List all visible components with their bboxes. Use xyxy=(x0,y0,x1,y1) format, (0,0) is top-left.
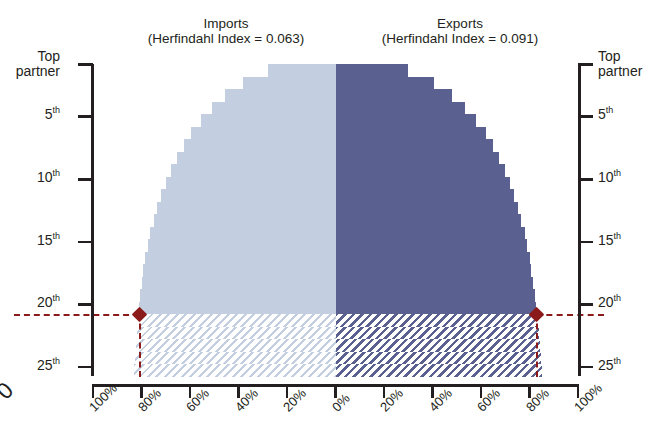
rank-row xyxy=(93,252,578,265)
rank-row xyxy=(93,202,578,215)
exports-bar xyxy=(336,202,519,215)
rank-row xyxy=(93,314,578,327)
imports-bar xyxy=(177,152,336,165)
y-axis-label: Toppartner xyxy=(16,49,60,78)
y-tick-left xyxy=(78,115,93,118)
y-axis-label: 20th xyxy=(598,294,621,309)
plot-area xyxy=(93,64,578,377)
rank-row xyxy=(93,164,578,177)
reference-drop-left xyxy=(139,314,141,377)
exports-bar xyxy=(336,89,452,102)
rank-row xyxy=(93,102,578,115)
exports-bar xyxy=(336,302,537,315)
y-axis-right-spine xyxy=(578,64,581,376)
rank-row xyxy=(93,277,578,290)
y-tick-left xyxy=(78,303,93,306)
exports-bar xyxy=(336,264,532,277)
imports-bar xyxy=(201,114,336,127)
x-axis-label: 80% xyxy=(135,386,164,415)
imports-bar xyxy=(150,227,336,240)
y-tick-right xyxy=(578,241,593,244)
rank-row xyxy=(93,327,578,340)
exports-bar xyxy=(336,139,494,152)
exports-bar xyxy=(336,77,434,90)
rank-row xyxy=(93,214,578,227)
rank-row xyxy=(93,239,578,252)
imports-bar xyxy=(161,189,336,202)
exports-bar xyxy=(336,289,535,302)
imports-bar xyxy=(154,214,336,227)
imports-bar xyxy=(184,139,336,152)
exports-title: Exports (Herfindahl Index = 0.091) xyxy=(330,16,590,46)
imports-bar xyxy=(225,89,335,102)
rank-row xyxy=(93,114,578,127)
rank-row xyxy=(93,289,578,302)
exports-bar xyxy=(336,239,528,252)
y-tick-left xyxy=(78,178,93,181)
imports-bar xyxy=(134,364,335,377)
x-axis-label: 20% xyxy=(280,386,309,415)
rank-row xyxy=(93,152,578,165)
y-axis-label: 25th xyxy=(37,357,60,372)
exports-bar xyxy=(336,339,540,352)
exports-bar xyxy=(336,327,539,340)
y-axis-label: 5th xyxy=(45,106,60,121)
imports-bar xyxy=(145,252,335,265)
y-tick-left xyxy=(78,366,93,369)
x-axis-label: 0% xyxy=(329,391,353,415)
imports-title: Imports (Herfindahl Index = 0.063) xyxy=(96,16,356,46)
rank-row xyxy=(93,264,578,277)
imports-bar xyxy=(166,177,336,190)
imports-bar xyxy=(135,352,336,365)
y-tick-right xyxy=(578,366,593,369)
rank-row xyxy=(93,89,578,102)
imports-bar xyxy=(212,102,336,115)
imports-bar xyxy=(139,302,335,315)
imports-bar xyxy=(137,327,336,340)
exports-bar xyxy=(336,102,466,115)
exports-bar xyxy=(336,277,534,290)
exports-bar xyxy=(336,177,511,190)
exports-bar xyxy=(336,164,506,177)
imports-bar xyxy=(148,239,336,252)
exports-bar xyxy=(336,114,477,127)
y-axis-label: 20th xyxy=(37,294,60,309)
reference-line-right xyxy=(536,314,604,316)
y-tick-right xyxy=(578,63,593,66)
chart-canvas: Imports (Herfindahl Index = 0.063) Expor… xyxy=(0,0,669,440)
y-axis-label: 15th xyxy=(37,232,60,247)
y-tick-left xyxy=(78,241,93,244)
x-axis-label: 60% xyxy=(183,386,212,415)
imports-bar xyxy=(171,164,336,177)
y-tick-right xyxy=(578,115,593,118)
rank-row xyxy=(93,364,578,377)
imports-bar xyxy=(142,277,336,290)
exports-bar xyxy=(336,314,538,327)
rank-row xyxy=(93,352,578,365)
rank-row xyxy=(93,339,578,352)
y-axis-left-spine xyxy=(91,64,94,376)
imports-bar xyxy=(143,264,335,277)
rank-row xyxy=(93,139,578,152)
rank-row xyxy=(93,77,578,90)
exports-bar xyxy=(336,152,500,165)
y-tick-right xyxy=(578,303,593,306)
imports-title-main: Imports xyxy=(96,16,356,31)
rank-row xyxy=(93,227,578,240)
exports-bar xyxy=(336,364,542,377)
imports-bar xyxy=(138,314,336,327)
imports-herfindahl-label: (Herfindahl Index = 0.063) xyxy=(96,31,356,46)
rank-row xyxy=(93,302,578,315)
reference-line-left xyxy=(14,314,139,316)
exports-bar xyxy=(336,252,530,265)
rank-row xyxy=(93,127,578,140)
exports-herfindahl-label: (Herfindahl Index = 0.091) xyxy=(330,31,590,46)
exports-title-main: Exports xyxy=(330,16,590,31)
y-tick-right xyxy=(578,178,593,181)
clipped-neighbor-label: 0 xyxy=(0,377,19,405)
imports-bar xyxy=(140,289,335,302)
imports-bar xyxy=(136,339,336,352)
rank-row xyxy=(93,189,578,202)
exports-bar xyxy=(336,189,515,202)
y-axis-label: 10th xyxy=(37,169,60,184)
